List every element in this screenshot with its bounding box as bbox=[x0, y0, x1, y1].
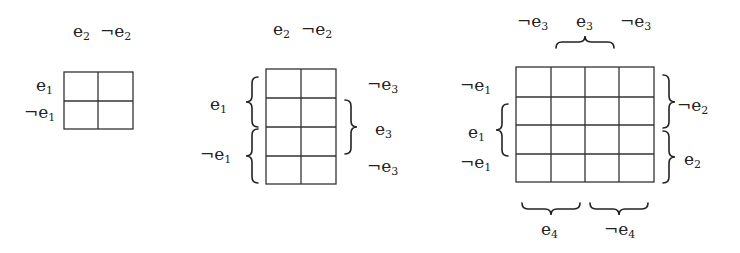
map-3var-grid bbox=[266, 69, 336, 184]
left-brace-e1 bbox=[246, 77, 258, 127]
left-brace-not-e1 bbox=[246, 129, 258, 183]
right-brace-e3 bbox=[345, 100, 357, 154]
map2-right-label-not-e3-top: ¬e3 bbox=[367, 76, 398, 95]
right-brace-not-e2 bbox=[663, 75, 675, 128]
map2-col-label-e2: e2 bbox=[273, 21, 290, 40]
map-2var-grid bbox=[64, 72, 133, 129]
map2-left-label-not-e1: ¬e1 bbox=[200, 146, 231, 165]
map3-right-label-e2: e2 bbox=[684, 151, 701, 170]
bottom-brace-e4 bbox=[522, 203, 580, 215]
map3-top-label-e3: e3 bbox=[576, 13, 593, 32]
top-brace-e3 bbox=[556, 36, 614, 48]
map-4var-grid bbox=[516, 67, 654, 182]
map3-right-label-not-e2: ¬e2 bbox=[677, 97, 708, 116]
map2-left-label-e1: e1 bbox=[210, 96, 227, 115]
map1-col-label-not-e2: ¬e2 bbox=[100, 23, 131, 42]
map3-top-label-not-e3-right: ¬e3 bbox=[620, 13, 651, 32]
right-brace-e2 bbox=[663, 131, 675, 183]
map2-col-label-not-e2: ¬e2 bbox=[301, 21, 332, 40]
left-brace-e1-map3 bbox=[496, 104, 508, 156]
map3-left-label-e1: e1 bbox=[468, 124, 485, 143]
map1-row-label-e1: e1 bbox=[36, 77, 53, 96]
map3-left-label-not-e1-bottom: ¬e1 bbox=[460, 154, 491, 173]
map1-col-label-e2: e2 bbox=[73, 23, 90, 42]
map3-top-label-not-e3-left: ¬e3 bbox=[517, 13, 548, 32]
map3-bottom-label-e4: e4 bbox=[541, 221, 558, 240]
map3-left-label-not-e1-top: ¬e1 bbox=[460, 77, 491, 96]
map2-right-label-not-e3-bottom: ¬e3 bbox=[367, 158, 398, 177]
map1-row-label-not-e1: ¬e1 bbox=[24, 104, 55, 123]
map3-bottom-label-not-e4: ¬e4 bbox=[604, 221, 635, 240]
map2-right-label-e3: e3 bbox=[375, 121, 392, 140]
bottom-brace-not-e4 bbox=[590, 203, 648, 215]
